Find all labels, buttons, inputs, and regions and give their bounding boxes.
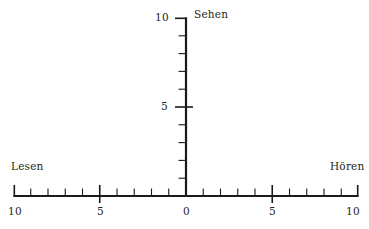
- coordinate-axes-chart: Lesen Hören Sehen 10 5 0 5 10 5 10: [0, 0, 369, 229]
- y-tick-label-5: 5: [161, 101, 168, 112]
- x-tick-label-left-10: 10: [8, 206, 22, 217]
- axes-drawing: [0, 0, 369, 229]
- x-tick-label-origin-0: 0: [183, 206, 190, 217]
- axis-label-sehen: Sehen: [194, 9, 228, 20]
- x-tick-label-right-5: 5: [269, 206, 276, 217]
- x-tick-label-left-5: 5: [97, 206, 104, 217]
- axis-label-lesen: Lesen: [11, 161, 44, 172]
- y-tick-label-10: 10: [155, 12, 169, 23]
- x-tick-label-right-10: 10: [346, 206, 360, 217]
- axis-label-hoeren: Hören: [330, 161, 364, 172]
